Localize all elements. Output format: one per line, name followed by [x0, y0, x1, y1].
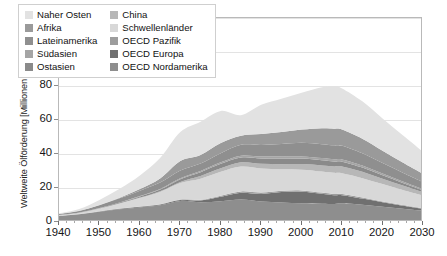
x-minor-tick-2024 — [398, 221, 399, 223]
legend-item-südasien[interactable]: Südasien — [25, 48, 97, 60]
x-tick-mark-2030 — [422, 221, 423, 225]
legend-swatch-icon — [110, 11, 118, 19]
x-minor-tick-1946 — [82, 221, 83, 223]
legend-swatch-icon — [110, 50, 118, 58]
legend-column-left: Naher OstenAfrikaLateinamerikaSüdasienOs… — [25, 9, 97, 73]
legend-swatch-icon — [110, 37, 118, 45]
legend-item-oecd-nordamerika[interactable]: OECD Nordamerika — [110, 61, 207, 73]
legend-item-oecd-europa[interactable]: OECD Europa — [110, 48, 207, 60]
legend-item-label: China — [122, 10, 147, 20]
y-tick-label-20: 20 — [18, 180, 52, 192]
chart-legend: Naher OstenAfrikaLateinamerikaSüdasienOs… — [18, 4, 216, 78]
legend-swatch-icon — [25, 37, 33, 45]
x-minor-tick-2026 — [406, 221, 407, 223]
y-tick-label-0: 0 — [18, 214, 52, 226]
legend-item-label: OECD Pazifik — [122, 36, 181, 46]
x-minor-tick-1996 — [284, 221, 285, 223]
x-minor-tick-2004 — [317, 221, 318, 223]
x-tick-label-2000: 2000 — [278, 226, 324, 238]
x-minor-tick-1944 — [74, 221, 75, 223]
legend-item-lateinamerika[interactable]: Lateinamerika — [25, 35, 97, 47]
x-minor-tick-1978 — [212, 221, 213, 223]
x-minor-tick-1976 — [204, 221, 205, 223]
x-minor-tick-2012 — [349, 221, 350, 223]
x-tick-label-1950: 1950 — [75, 226, 121, 238]
x-tick-mark-2020 — [382, 221, 383, 225]
x-tick-mark-1980 — [220, 221, 221, 225]
legend-item-naher-osten[interactable]: Naher Osten — [25, 9, 97, 21]
legend-item-label: OECD Nordamerika — [122, 62, 207, 72]
legend-item-label: Lateinamerika — [37, 36, 97, 46]
legend-swatch-icon — [110, 63, 118, 71]
x-minor-tick-1956 — [123, 221, 124, 223]
legend-item-ostasien[interactable]: Ostasien — [25, 61, 97, 73]
legend-item-afrika[interactable]: Afrika — [25, 22, 97, 34]
x-minor-tick-2028 — [414, 221, 415, 223]
x-minor-tick-2016 — [365, 221, 366, 223]
x-minor-tick-1986 — [244, 221, 245, 223]
y-tick-label-60: 60 — [18, 112, 52, 124]
legend-item-oecd-pazifik[interactable]: OECD Pazifik — [110, 35, 207, 47]
x-tick-label-1970: 1970 — [156, 226, 202, 238]
legend-item-label: Afrika — [37, 23, 62, 33]
x-tick-label-2020: 2020 — [359, 226, 405, 238]
x-minor-tick-1942 — [66, 221, 67, 223]
x-minor-tick-1968 — [171, 221, 172, 223]
x-minor-tick-1964 — [155, 221, 156, 223]
x-minor-tick-2022 — [390, 221, 391, 223]
x-tick-mark-2010 — [341, 221, 342, 225]
x-tick-mark-2000 — [301, 221, 302, 225]
x-minor-tick-1948 — [90, 221, 91, 223]
legend-item-schwellenländer[interactable]: Schwellenländer — [110, 22, 207, 34]
legend-swatch-icon — [25, 11, 33, 19]
x-tick-label-2010: 2010 — [318, 226, 364, 238]
y-tick-label-40: 40 — [18, 146, 52, 158]
legend-swatch-icon — [25, 50, 33, 58]
x-minor-tick-1954 — [115, 221, 116, 223]
x-tick-label-2030: 2030 — [399, 226, 445, 238]
x-minor-tick-2002 — [309, 221, 310, 223]
x-minor-tick-1998 — [293, 221, 294, 223]
legend-item-label: Südasien — [37, 49, 77, 59]
x-minor-tick-2014 — [357, 221, 358, 223]
chart-figure: Weltweite Ölförderung [Millionen Barrel … — [0, 0, 447, 256]
x-minor-tick-1984 — [236, 221, 237, 223]
legend-item-label: OECD Europa — [122, 49, 183, 59]
x-minor-tick-1958 — [131, 221, 132, 223]
x-tick-mark-1970 — [179, 221, 180, 225]
legend-item-label: Schwellenländer — [122, 23, 192, 33]
legend-column-right: ChinaSchwellenländerOECD PazifikOECD Eur… — [110, 9, 207, 73]
x-tick-mark-1990 — [260, 221, 261, 225]
legend-swatch-icon — [25, 63, 33, 71]
x-minor-tick-2006 — [325, 221, 326, 223]
x-minor-tick-1966 — [163, 221, 164, 223]
x-tick-label-1980: 1980 — [197, 226, 243, 238]
x-tick-mark-1940 — [58, 221, 59, 225]
legend-swatch-icon — [25, 24, 33, 32]
x-minor-tick-2018 — [373, 221, 374, 223]
legend-item-label: Ostasien — [37, 62, 75, 72]
legend-swatch-icon — [110, 24, 118, 32]
x-minor-tick-1952 — [107, 221, 108, 223]
x-minor-tick-1982 — [228, 221, 229, 223]
x-tick-mark-1960 — [139, 221, 140, 225]
y-tick-label-80: 80 — [18, 78, 52, 90]
x-minor-tick-1972 — [187, 221, 188, 223]
x-minor-tick-1962 — [147, 221, 148, 223]
x-minor-tick-1992 — [268, 221, 269, 223]
x-tick-mark-1950 — [98, 221, 99, 225]
x-minor-tick-2008 — [333, 221, 334, 223]
x-minor-tick-1994 — [276, 221, 277, 223]
x-minor-tick-1988 — [252, 221, 253, 223]
x-tick-label-1990: 1990 — [237, 226, 283, 238]
legend-item-china[interactable]: China — [110, 9, 207, 21]
legend-item-label: Naher Osten — [37, 10, 91, 20]
x-tick-label-1960: 1960 — [116, 226, 162, 238]
x-tick-label-1940: 1940 — [35, 226, 81, 238]
x-minor-tick-1974 — [196, 221, 197, 223]
